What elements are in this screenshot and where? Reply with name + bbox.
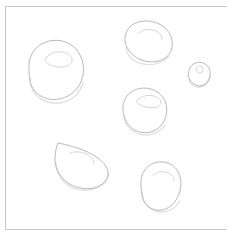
illustration-canvas: Water droplets line drawing — [0, 0, 227, 239]
droplets-illustration-svg — [0, 0, 227, 239]
canvas-background — [0, 0, 227, 239]
